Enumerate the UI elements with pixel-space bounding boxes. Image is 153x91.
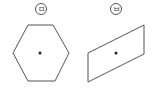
figure-label-bieup: ㅂ	[110, 3, 122, 15]
figure-canvas	[0, 0, 153, 91]
hexagon-center-dot	[39, 52, 42, 55]
figure-label-mieum: ㅁ	[35, 3, 47, 15]
parallelogram-center-dot	[115, 52, 118, 55]
